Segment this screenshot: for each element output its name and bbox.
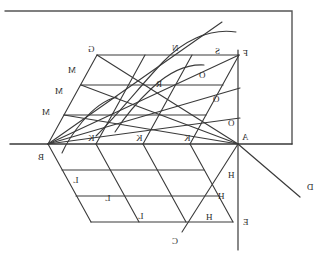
grid-line-b2 xyxy=(143,144,186,222)
grid-line-b0 xyxy=(48,144,91,222)
label-C-bottom: C xyxy=(172,237,178,246)
label-O-1: O xyxy=(199,71,206,80)
ray-B-1 xyxy=(48,22,222,144)
label-H-3: H xyxy=(206,213,213,222)
geometric-diagram xyxy=(0,0,330,259)
label-O-2: O xyxy=(213,95,220,104)
label-O-3: O xyxy=(228,119,235,128)
label-M-2: M xyxy=(55,87,63,96)
label-B: B xyxy=(38,153,44,162)
label-M-3: M xyxy=(42,108,50,117)
label-H-1: H xyxy=(228,171,235,180)
grid-line-b1 xyxy=(96,144,139,222)
label-R: R xyxy=(156,80,162,89)
label-E-bottom: E xyxy=(243,218,249,227)
label-F-top: F xyxy=(243,49,248,58)
label-H-2: H xyxy=(218,192,225,201)
diagonal-axis-AD xyxy=(238,144,300,197)
label-K-1: K xyxy=(88,134,95,143)
label-L-2: L xyxy=(105,194,111,203)
label-G-top: G xyxy=(88,45,95,54)
label-L-3: L xyxy=(138,212,144,221)
label-A: A xyxy=(242,133,249,142)
label-M-1: M xyxy=(68,66,76,75)
label-K-2: K xyxy=(136,134,143,143)
label-L-1: L xyxy=(73,176,79,185)
label-D-right: D xyxy=(307,183,314,192)
label-N: N xyxy=(172,44,179,53)
label-K-3: K xyxy=(184,134,191,143)
figure-canvas: G M M M B K K K L L L C H H H R N S O O … xyxy=(0,0,330,259)
label-S: S xyxy=(215,47,220,56)
